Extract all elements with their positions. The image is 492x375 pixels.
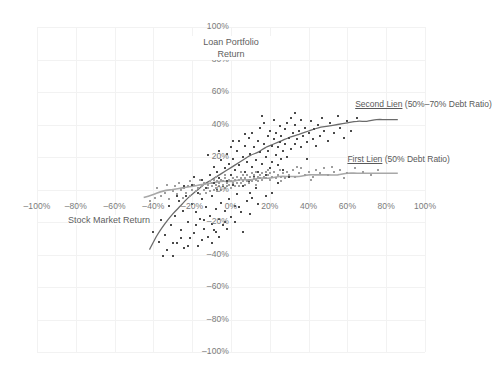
scatter-point [333,132,335,134]
scatter-point [339,127,341,129]
x-tick-label: 100% [400,201,450,211]
scatter-point [176,242,178,244]
scatter-point [259,127,261,129]
scatter-point [154,197,156,199]
scatter-point [240,177,242,179]
scatter-point [172,190,174,192]
gridline-horizontal [37,27,425,28]
scatter-point [238,164,240,166]
scatter-point [284,177,286,179]
scatter-point [288,174,290,176]
scatter-point [201,239,203,241]
scatter-point [242,185,244,187]
scatter-point [265,177,267,179]
scatter-point [160,195,162,197]
scatter-point [259,151,261,153]
scatter-point [273,171,275,173]
scatter-point [280,176,282,178]
scatter-point [294,112,296,114]
scatter-point [211,195,213,197]
gridline-vertical [425,27,426,352]
scatter-point [362,171,364,173]
scatter-point [331,166,333,168]
scatter-point [255,171,257,173]
scatter-point [302,135,304,137]
scatter-point [300,167,302,169]
scatter-point [275,154,277,156]
scatter-point [267,150,269,152]
scatter-point [178,182,180,184]
scatter-point [280,158,282,160]
scatter-point [279,141,281,143]
scatter-point [263,143,265,145]
y-tick-label: –100% [185,346,229,356]
scatter-point [255,187,257,189]
scatter-point [180,229,182,231]
y-tick-label: 60% [185,86,229,96]
scatter-point [269,172,271,174]
scatter-point [236,182,238,184]
annotation-rest: (50% Debt Ratio) [382,154,450,164]
scatter-point [242,231,244,233]
scatter-point [218,236,220,238]
y-tick-label: –40% [185,249,229,259]
scatter-point [319,172,321,174]
scatter-point [230,146,232,148]
scatter-point [187,245,189,247]
scatter-point [160,219,162,221]
scatter-point [321,117,323,119]
scatter-point [251,197,253,199]
scatter-point [230,174,232,176]
scatter-point [315,145,317,147]
scatter-point [310,179,312,181]
scatter-point [282,169,284,171]
scatter-point [242,180,244,182]
scatter-point [327,174,329,176]
scatter-point [298,130,300,132]
scatter-point [248,182,250,184]
scatter-point [236,193,238,195]
scatter-point [242,174,244,176]
scatter-point [284,143,286,145]
y-axis-title: Loan PortfolioReturn [179,36,283,60]
scatter-point [271,176,273,178]
scatter-point [230,216,232,218]
scatter-point [166,249,168,251]
scatter-point [238,140,240,142]
scatter-point [282,172,284,174]
scatter-point [176,193,178,195]
scatter-point [261,163,263,165]
annotation-rest: (50%–70% Debt Ratio) [402,99,491,109]
scatter-point [244,133,246,135]
scatter-point [300,119,302,121]
scatter-point [319,135,321,137]
scatter-point [290,117,292,119]
scatter-point [251,132,253,134]
scatter-point [269,179,271,181]
scatter-point [236,150,238,152]
scatter-point [174,185,176,187]
scatter-point [317,124,319,126]
scatter-point [240,211,242,213]
scatter-point [213,166,215,168]
scatter-point [315,169,317,171]
scatter-point [257,171,259,173]
scatter-point [277,174,279,176]
scatter-point [273,119,275,121]
scatter-point [201,179,203,181]
scatter-point [244,145,246,147]
annotation-lead: Second Lien [355,99,402,109]
scatter-point [193,176,195,178]
scatter-point [267,135,269,137]
scatter-point [172,242,174,244]
y-axis-title-line: Return [179,48,283,60]
scatter-point [298,172,300,174]
scatter-point [226,228,228,230]
scatter-point [211,242,213,244]
scatter-point [228,163,230,165]
y-axis-title-line: Loan Portfolio [179,36,283,48]
scatter-point [300,146,302,148]
scatter-point [273,138,275,140]
scatter-point [166,184,168,186]
